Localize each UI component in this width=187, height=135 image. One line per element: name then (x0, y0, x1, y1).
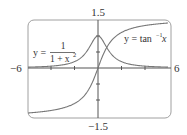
chart: −6 6 1.5 −1.5 y = 1 1 + x 2 y = tan −1 x (0, 0, 187, 135)
curve-arctan-label: y = tan −1 x (124, 32, 167, 44)
curve1-y-eq: y = (33, 47, 47, 58)
curve2-var: x (161, 33, 167, 44)
y-max-label: 1.5 (91, 6, 105, 18)
y-min-label: −1.5 (88, 120, 108, 132)
curve1-denominator: 1 + x (50, 54, 70, 64)
curve1-exponent: 2 (73, 51, 76, 58)
curve2-y-eq: y = tan (124, 33, 152, 44)
curve1-numerator: 1 (61, 41, 66, 51)
curve-reciprocal-label: y = 1 1 + x 2 (33, 41, 76, 64)
x-max-label: 6 (174, 62, 180, 74)
x-min-label: −6 (10, 62, 22, 74)
